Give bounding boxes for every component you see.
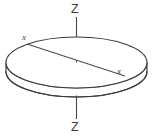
disk-axes-diagram	[0, 0, 155, 139]
x-axis-right-label: x	[117, 67, 121, 76]
z-axis-top-label: Z	[71, 3, 79, 16]
x-axis-left-label: x	[22, 33, 26, 42]
z-axis-bottom-label: Z	[71, 121, 79, 134]
figure-container: Z Z x x	[0, 0, 155, 139]
